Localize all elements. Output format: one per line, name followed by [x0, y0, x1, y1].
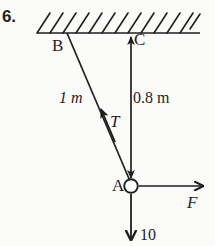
label-tension: T [110, 113, 119, 130]
label-weight: 10 [140, 227, 156, 243]
cable-ba [67, 33, 130, 181]
label-force-f: F [187, 194, 197, 211]
joint-a [124, 179, 138, 193]
label-rod-length: 0.8 m [133, 90, 169, 106]
ceiling-hatching [37, 13, 200, 33]
item-number: 6. [2, 8, 16, 25]
figure-drawing [0, 0, 215, 246]
label-point-a: A [112, 177, 124, 194]
label-point-b: B [52, 37, 63, 54]
label-point-c: C [134, 31, 145, 48]
label-cable-length: 1 m [59, 90, 83, 106]
ceiling-support [37, 13, 200, 33]
statics-figure: 6. B C A 1 m 0.8 m T F 10 [0, 0, 215, 246]
